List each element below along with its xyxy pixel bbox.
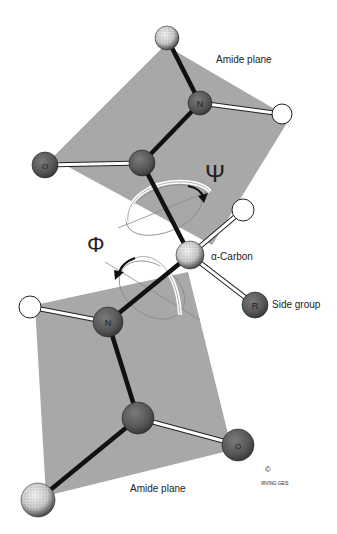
- oxygen-bottom-atom: O: [222, 429, 254, 461]
- alpha-carbon-label: α-Carbon: [211, 251, 253, 262]
- oxygen-top-atom: O: [32, 152, 58, 178]
- hydrogen-top-atom: [272, 104, 292, 124]
- hydrogen-bottom-atom: [19, 296, 41, 318]
- r-group-atom: R: [242, 292, 268, 318]
- peptide-diagram: N O R N O Amide plane Ψ Φ α-Carbon Side …: [0, 0, 337, 534]
- nitrogen-top-atom: N: [188, 91, 212, 115]
- artist-signature: IRVING GEIS: [261, 481, 288, 486]
- svg-text:O: O: [42, 162, 48, 171]
- copyright-symbol: ©: [265, 465, 271, 474]
- amide-plane-bottom: [35, 272, 232, 496]
- psi-symbol: Ψ: [205, 160, 225, 187]
- carbon-top-atom: [129, 150, 155, 176]
- svg-text:O: O: [235, 442, 241, 451]
- hydrogen-calpha-atom: [232, 199, 254, 221]
- calpha-top-atom: [155, 26, 179, 50]
- nitrogen-bottom-atom: N: [93, 307, 123, 337]
- carbon-bottom-atom: [122, 402, 154, 434]
- amide-plane-top-label: Amide plane: [216, 54, 272, 65]
- calpha-bottom-atom: [21, 483, 55, 517]
- phi-symbol: Φ: [87, 232, 105, 257]
- svg-text:N: N: [197, 99, 204, 109]
- side-group-label: Side group: [272, 299, 321, 310]
- svg-text:N: N: [105, 318, 112, 328]
- alpha-carbon-atom: [176, 241, 204, 269]
- amide-plane-bottom-label: Amide plane: [130, 483, 186, 494]
- svg-text:R: R: [252, 301, 259, 311]
